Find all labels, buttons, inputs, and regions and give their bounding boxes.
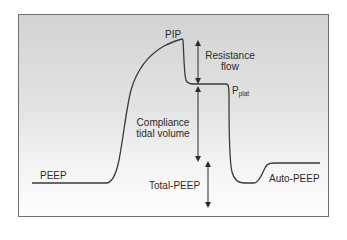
- label-auto-peep: Auto-PEEP: [269, 173, 320, 184]
- label-pplat-main: P: [232, 85, 239, 96]
- label-compliance-line2: tidal volume: [132, 128, 194, 139]
- label-compliance: Compliance tidal volume: [132, 117, 194, 139]
- label-resistance-line1: Resistance: [202, 50, 258, 61]
- label-resistance: Resistance flow: [202, 50, 258, 72]
- label-peep: PEEP: [40, 170, 67, 181]
- label-pplat: Pplat: [232, 85, 249, 99]
- pressure-curve: [32, 39, 320, 183]
- label-pplat-sub: plat: [239, 90, 249, 97]
- label-resistance-line2: flow: [202, 61, 258, 72]
- label-total-peep: Total-PEEP: [149, 180, 200, 191]
- label-pip: PIP: [165, 29, 181, 40]
- label-compliance-line1: Compliance: [132, 117, 194, 128]
